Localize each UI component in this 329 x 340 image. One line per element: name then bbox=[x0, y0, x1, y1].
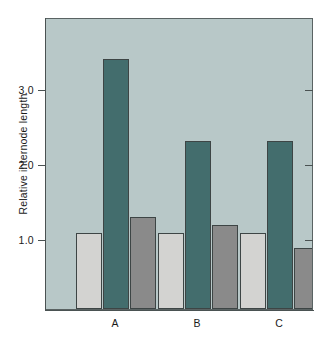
bar-a-series-2 bbox=[103, 59, 129, 309]
bar-c-series-2 bbox=[267, 141, 293, 309]
bar-a-series-1 bbox=[76, 233, 102, 309]
y-tick-right-1 bbox=[305, 240, 313, 241]
y-tick-right-3 bbox=[305, 90, 313, 91]
y-tick-right-2 bbox=[305, 165, 313, 166]
x-tick-label-a: A bbox=[95, 317, 135, 329]
bar-b-series-3 bbox=[212, 225, 238, 309]
plot-area bbox=[45, 18, 313, 310]
y-tick-3 bbox=[38, 90, 46, 91]
bar-c-series-1 bbox=[240, 233, 266, 309]
x-tick-label-b: B bbox=[177, 317, 217, 329]
y-tick-1 bbox=[38, 240, 46, 241]
bar-c-series-3 bbox=[294, 248, 313, 309]
x-axis-line bbox=[45, 310, 314, 311]
x-tick-label-c: C bbox=[259, 317, 299, 329]
bar-b-series-2 bbox=[185, 141, 211, 309]
bar-b-series-1 bbox=[158, 233, 184, 309]
y-tick-2 bbox=[38, 165, 46, 166]
bar-a-series-3 bbox=[130, 217, 156, 309]
bar-chart-figure: 3.0 2.0 1.0 Relative internode length A … bbox=[0, 0, 329, 340]
y-axis-title: Relative internode length bbox=[17, 69, 29, 239]
